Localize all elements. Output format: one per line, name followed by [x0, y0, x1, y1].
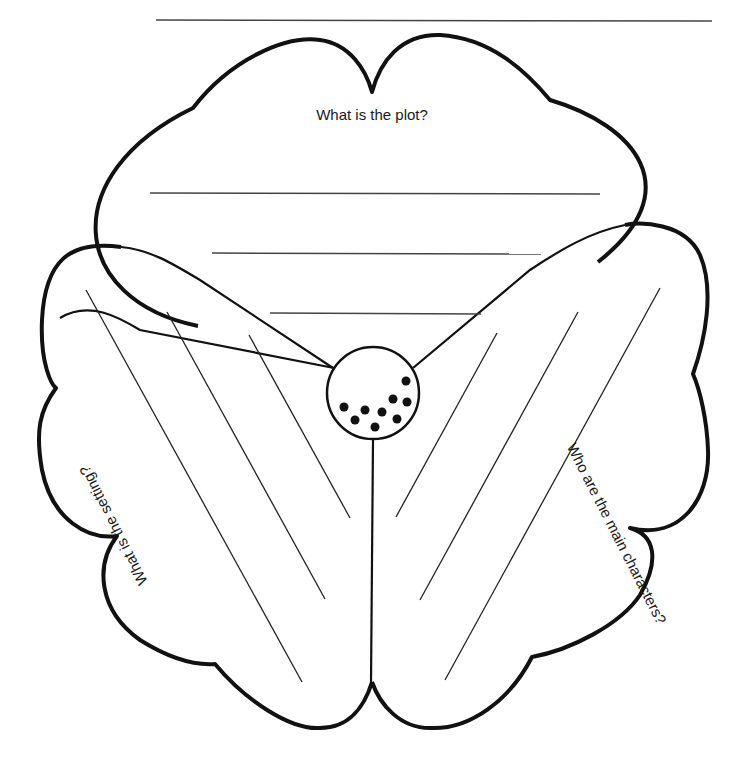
- story-flower-worksheet: What is the plot? What is the setting? W…: [0, 0, 748, 764]
- name-line[interactable]: [156, 20, 712, 21]
- prompt-setting: What is the setting?: [76, 463, 151, 588]
- prompt-plot: What is the plot?: [316, 106, 428, 123]
- plot-writing-line-1[interactable]: [150, 193, 600, 194]
- characters-writing-line-1[interactable]: [396, 333, 497, 517]
- petal-characters-outline: [372, 224, 708, 728]
- setting-writing-line-3[interactable]: [249, 335, 350, 518]
- characters-writing-line-3[interactable]: [445, 288, 660, 680]
- setting-writing-line-1[interactable]: [86, 290, 302, 682]
- plot-writing-line-2[interactable]: [212, 253, 541, 254]
- petal-plot-outline: [96, 35, 646, 326]
- divider-left: [60, 310, 334, 368]
- divider-bottom: [371, 440, 373, 682]
- divider-right: [413, 225, 625, 368]
- prompt-characters: Who are the main characters?: [564, 440, 670, 627]
- setting-writing-line-2[interactable]: [167, 312, 325, 599]
- plot-writing-line-3[interactable]: [270, 313, 481, 314]
- characters-writing-line-2[interactable]: [420, 312, 578, 600]
